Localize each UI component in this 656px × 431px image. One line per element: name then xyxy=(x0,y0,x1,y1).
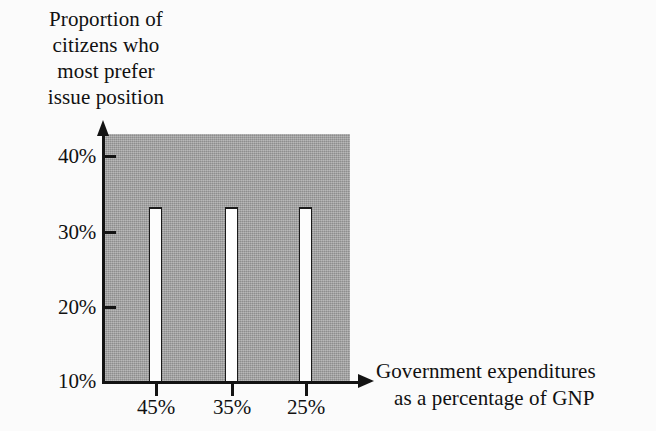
x-axis-label: Government expenditures as a percentage … xyxy=(376,358,652,412)
y-tick-20 xyxy=(105,306,116,309)
bar-chart-figure: Proportion of citizens who most prefer i… xyxy=(0,0,656,431)
bar-35 xyxy=(225,207,238,381)
x-tick-label-35: 35% xyxy=(192,396,272,418)
y-axis-line xyxy=(102,134,105,383)
y-tick-label-20: 20% xyxy=(34,297,96,318)
y-axis-label-line-1: Proportion of xyxy=(6,6,206,32)
y-axis-label-line-4: issue position xyxy=(6,84,206,110)
x-axis-arrowhead-icon xyxy=(358,374,374,388)
plot-area xyxy=(105,134,350,381)
y-axis-label-line-3: most prefer xyxy=(6,58,206,84)
y-axis-label: Proportion of citizens who most prefer i… xyxy=(6,6,206,110)
x-tick-label-45: 45% xyxy=(116,396,196,418)
y-tick-label-40: 40% xyxy=(34,146,96,167)
y-axis-arrowhead-icon xyxy=(97,120,109,136)
y-tick-30 xyxy=(105,231,116,234)
x-axis-label-line-1: Government expenditures xyxy=(376,358,652,385)
y-tick-label-30: 30% xyxy=(34,222,96,243)
bar-45 xyxy=(149,207,162,381)
bar-25 xyxy=(299,207,312,381)
x-tick-label-25: 25% xyxy=(266,396,346,418)
y-tick-40 xyxy=(105,155,116,158)
x-axis-label-line-2: as a percentage of GNP xyxy=(376,385,652,412)
y-axis-label-line-2: citizens who xyxy=(6,32,206,58)
y-tick-label-10: 10% xyxy=(34,371,96,392)
